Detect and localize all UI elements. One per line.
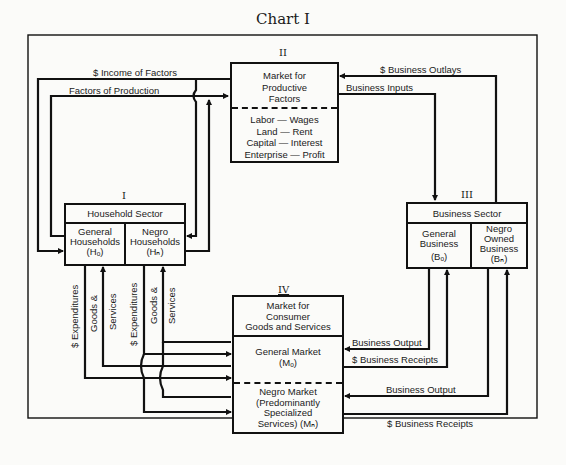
goods-negro-label-1: Goods &: [148, 287, 159, 324]
factor-row-enterprise: Enterprise — Profit: [232, 149, 337, 161]
expenditures-negro-to-negro-line: [141, 354, 231, 412]
factor-row-labor: Labor — Wages: [232, 114, 337, 126]
title-line: Productive: [232, 82, 337, 94]
divider: [234, 335, 342, 337]
numeral-iii: III: [461, 189, 473, 200]
general-market: General Market (Mₒ): [234, 347, 342, 368]
text-line: (Hₙ): [126, 247, 184, 257]
business-sector-box: Business Sector General Business (Bₒ) Ne…: [406, 202, 528, 269]
business-inputs-label: Business Inputs: [346, 82, 413, 93]
goods-negro-from-negro-line: [160, 342, 231, 397]
negro-owned-business: Negro Owned Business (Bₙ): [472, 224, 526, 264]
text-line: Business: [408, 239, 470, 249]
factor-row-land: Land — Rent: [232, 126, 337, 138]
business-receipts-general-line: [343, 270, 447, 367]
business-receipts-general-label: $ Business Receipts: [352, 354, 438, 365]
general-households: General Households (Hₒ): [66, 227, 124, 257]
title-line: Market for: [234, 301, 342, 312]
title-line: Goods and Services: [234, 322, 342, 333]
numeral-ii: II: [279, 47, 287, 58]
factor-row-capital: Capital — Interest: [232, 137, 337, 149]
title-line: Market for: [232, 70, 337, 82]
factor-rows: Labor — Wages Land — Rent Capital — Inte…: [232, 114, 337, 160]
dashed-divider: [234, 382, 342, 384]
title-line: Factors: [232, 93, 337, 105]
goods-negro-label-2: Services: [166, 288, 177, 324]
text-line: (Mₒ): [234, 358, 342, 369]
negro-market: Negro Market (Predominantly Specialized …: [234, 387, 342, 429]
general-business: General Business (Bₒ): [408, 229, 470, 262]
business-inputs-line: [338, 94, 435, 200]
text-line: (Bₙ): [472, 254, 526, 264]
goods-general-label-1: Goods &: [88, 295, 99, 332]
numeral-i: I: [122, 190, 126, 201]
expenditures-negro-label: $ Expenditures: [128, 283, 139, 346]
market-productive-title: Market for Productive Factors: [232, 70, 337, 105]
text-line: (Bₒ): [408, 252, 470, 262]
numeral-iv: IV: [278, 284, 289, 295]
goods-general-label-2: Services: [107, 294, 118, 330]
market-consumer-title: Market for Consumer Goods and Services: [234, 301, 342, 333]
factors-of-production-label: Factors of Production: [69, 85, 159, 96]
text-line: Specialized: [234, 408, 342, 419]
household-sector-box: Household Sector General Households (Hₒ)…: [64, 203, 186, 266]
business-output-negro-label: Business Output: [386, 384, 456, 395]
income-to-negro-line: [187, 79, 196, 236]
text-line: (Hₒ): [66, 247, 124, 257]
business-receipts-negro-label: $ Business Receipts: [387, 418, 473, 429]
negro-households: Negro Households (Hₙ): [126, 227, 184, 257]
text-line: Services) (Mₙ): [234, 419, 342, 430]
business-outlays-label: $ Business Outlays: [380, 64, 461, 75]
business-title: Business Sector: [408, 208, 526, 220]
business-output-general-label: Business Output: [352, 337, 422, 348]
business-output-negro-line: [345, 268, 488, 396]
household-title: Household Sector: [66, 208, 184, 220]
expenditures-general-label: $ Expenditures: [69, 285, 80, 348]
market-consumer-goods-box: Market for Consumer Goods and Services G…: [232, 295, 344, 434]
market-productive-factors-box: Market for Productive Factors Labor — Wa…: [230, 62, 339, 163]
text-line: Negro Market: [234, 387, 342, 398]
dashed-divider: [232, 107, 337, 109]
income-of-factors-label: $ Income of Factors: [93, 67, 177, 78]
text-line: General Market: [234, 347, 342, 358]
